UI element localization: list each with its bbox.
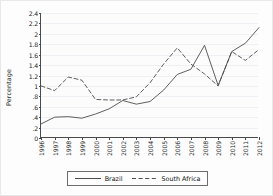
x-axis-tick bbox=[259, 137, 260, 140]
x-axis-tick-label: 2006 bbox=[174, 141, 181, 156]
x-axis-tick-label: 2011 bbox=[242, 141, 249, 156]
y-axis-tick-label: .6 bbox=[32, 103, 38, 110]
x-axis-tick-label: 2009 bbox=[215, 141, 222, 156]
legend-item-brazil[interactable]: Brazil bbox=[75, 175, 123, 183]
y-axis-title: Percentage bbox=[5, 69, 13, 106]
plot-area: 0.2.4.6.811.21.41.61.822.22.4 1996199719… bbox=[40, 13, 258, 138]
series-line-brazil bbox=[41, 28, 259, 124]
series-line-south-africa bbox=[41, 48, 259, 100]
legend-swatch-dashed bbox=[132, 175, 158, 182]
y-axis-tick-label: 1.8 bbox=[29, 41, 38, 48]
y-axis-tick-label: .8 bbox=[32, 93, 38, 100]
y-axis-tick-label: 2.2 bbox=[29, 20, 38, 27]
x-axis-tick-label: 2004 bbox=[147, 141, 154, 156]
x-axis-tick-label: 2005 bbox=[160, 141, 167, 156]
x-axis-tick-label: 2007 bbox=[187, 141, 194, 156]
x-axis-tick-label: 2012 bbox=[256, 141, 263, 156]
legend-swatch-solid bbox=[75, 175, 101, 182]
x-axis-tick-label: 2001 bbox=[106, 141, 113, 156]
y-axis-tick-label: .2 bbox=[32, 124, 38, 131]
y-axis-tick-label: 2 bbox=[34, 30, 38, 37]
x-axis-tick-label: 2000 bbox=[92, 141, 99, 156]
series-lines bbox=[41, 13, 259, 138]
legend-label: Brazil bbox=[105, 175, 123, 183]
y-axis-tick-label: 1.4 bbox=[29, 62, 38, 69]
x-axis-tick-label: 1997 bbox=[51, 141, 58, 156]
x-axis-tick-label: 1998 bbox=[65, 141, 72, 156]
x-axis-tick-label: 1999 bbox=[78, 141, 85, 156]
y-axis-tick-label: 1 bbox=[34, 82, 38, 89]
x-axis-tick-label: 2002 bbox=[119, 141, 126, 156]
legend-item-south-africa[interactable]: South Africa bbox=[132, 175, 201, 183]
y-axis-tick-label: 1.6 bbox=[29, 51, 38, 58]
chart-figure: Percentage 0.2.4.6.811.21.41.61.822.22.4… bbox=[0, 0, 273, 196]
y-axis-tick-label: 2.4 bbox=[29, 10, 38, 17]
chart-legend: BrazilSouth Africa bbox=[67, 171, 208, 186]
x-axis-tick-label: 2008 bbox=[201, 141, 208, 156]
x-axis-tick-label: 1996 bbox=[38, 141, 45, 156]
x-axis-tick-label: 2010 bbox=[228, 141, 235, 156]
legend-label: South Africa bbox=[162, 175, 201, 183]
y-axis-tick-label: 1.2 bbox=[29, 72, 38, 79]
y-axis-tick-label: .4 bbox=[32, 114, 38, 121]
x-axis-tick-label: 2003 bbox=[133, 141, 140, 156]
